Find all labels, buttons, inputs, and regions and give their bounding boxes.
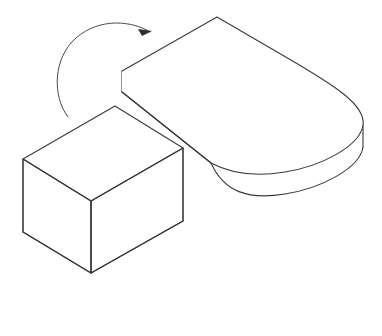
- figure-canvas: Rotation of a rectangular block onto a r…: [0, 0, 382, 336]
- rotation-arrow-head-icon: [138, 29, 152, 36]
- line-drawing-svg: Rotation of a rectangular block onto a r…: [0, 0, 382, 336]
